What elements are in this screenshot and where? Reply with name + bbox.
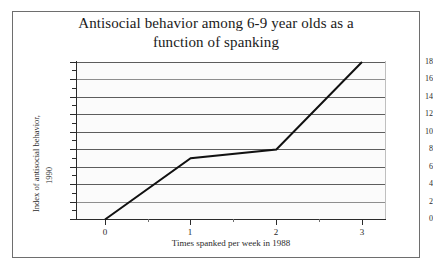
y-tick-16: [70, 79, 77, 80]
chart-title-line-1: Antisocial behavior among 6-9 year olds …: [30, 14, 402, 33]
x-axis-title: Times spanked per week in 1988: [76, 238, 386, 248]
y-axis-title-line-1: Index of antisocial behavior,: [31, 115, 41, 212]
y-tick-label-12: 12: [369, 109, 433, 118]
gridline-2: [76, 202, 385, 203]
y-tick-4: [70, 184, 77, 185]
y-tick-label-2: 2: [369, 197, 433, 206]
y-tick-label-16: 16: [369, 74, 433, 83]
y-tick-minor-3: [72, 193, 77, 194]
y-tick-minor-17: [72, 70, 77, 71]
x-tick-1: [190, 219, 191, 225]
y-tick-8: [70, 149, 77, 150]
gridline-10: [76, 132, 385, 133]
y-tick-label-18: 18: [369, 57, 433, 66]
x-tick-label-0: 0: [90, 227, 120, 237]
y-tick-minor-7: [72, 158, 77, 159]
gridline-6: [76, 167, 385, 168]
y-tick-label-8: 8: [369, 144, 433, 153]
gridline-14: [76, 97, 385, 98]
y-tick-14: [70, 97, 77, 98]
y-tick-label-4: 4: [369, 179, 433, 188]
y-tick-0: [70, 219, 77, 220]
x-axis-line: [76, 219, 386, 220]
y-tick-minor-1: [72, 210, 77, 211]
chart-figure: Antisocial behavior among 6-9 year olds …: [0, 0, 433, 270]
gridline-18: [76, 62, 385, 63]
chart-title: Antisocial behavior among 6-9 year olds …: [30, 14, 402, 52]
x-tick-minor-1-5: [233, 219, 234, 222]
y-tick-minor-13: [72, 105, 77, 106]
x-tick-label-1: 1: [175, 227, 205, 237]
x-tick-3: [362, 219, 363, 225]
x-tick-0: [105, 219, 106, 225]
y-tick-18: [70, 62, 77, 63]
y-tick-label-14: 14: [369, 92, 433, 101]
y-tick-label-10: 10: [369, 127, 433, 136]
x-tick-label-2: 2: [261, 227, 291, 237]
y-tick-6: [70, 167, 77, 168]
gridline-12: [76, 114, 385, 115]
y-tick-minor-15: [72, 88, 77, 89]
y-tick-label-0: 0: [369, 214, 433, 223]
y-tick-minor-11: [72, 123, 77, 124]
gridline-16: [76, 79, 385, 80]
x-tick-label-3: 3: [347, 227, 377, 237]
y-tick-minor-5: [72, 175, 77, 176]
chart-title-line-2: function of spanking: [30, 33, 402, 52]
y-tick-12: [70, 114, 77, 115]
y-axis-title-line-2: 1990: [44, 167, 54, 184]
y-tick-label-6: 6: [369, 162, 433, 171]
x-tick-2: [276, 219, 277, 225]
y-tick-minor-9: [72, 140, 77, 141]
y-tick-2: [70, 202, 77, 203]
gridline-8: [76, 149, 385, 150]
y-axis-title: Index of antisocial behavior, 1990: [22, 62, 70, 219]
gridline-4: [76, 184, 385, 185]
plot-area: [76, 62, 385, 219]
x-tick-minor-0-5: [148, 219, 149, 222]
y-tick-10: [70, 132, 77, 133]
x-tick-minor-2-5: [319, 219, 320, 222]
